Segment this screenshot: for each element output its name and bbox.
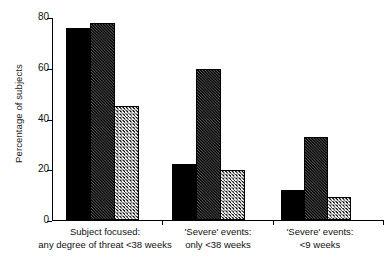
bar-chart: Percentage of subjects 80 60 40 20 0: [0, 0, 392, 267]
y-tick-label: 0: [43, 214, 49, 226]
x-tick-separator-2: [273, 221, 274, 225]
y-tick-label: 40: [38, 113, 49, 125]
y-tick-label: 60: [38, 62, 49, 74]
category-label-line2: <9 weeks: [265, 239, 375, 252]
bar-group3-series1: [281, 190, 305, 220]
x-tick-end: [383, 221, 384, 225]
bar-group3-series2: [304, 137, 328, 220]
category-label-3: 'Severe' events: <9 weeks: [265, 226, 375, 251]
bar-group3-series3: [327, 197, 351, 220]
bar-group1-series3: [114, 106, 139, 220]
category-label-line2: only <38 weeks: [156, 239, 280, 252]
category-label-line1: 'Severe' events:: [265, 226, 375, 239]
bar-group1-series1: [66, 28, 91, 220]
y-tick-label: 20: [38, 163, 49, 175]
y-axis-line: [52, 18, 53, 221]
x-tick-separator-1: [162, 221, 163, 225]
bar-group2-series1: [172, 164, 197, 220]
bar-group2-series2: [196, 69, 221, 221]
x-axis-line: [52, 220, 384, 221]
plot-area: 80 60 40 20 0: [52, 18, 384, 221]
bar-group1-series2: [90, 23, 115, 220]
category-label-line1: 'Severe' events:: [156, 226, 280, 239]
bar-group2-series3: [220, 170, 245, 221]
category-label-2: 'Severe' events: only <38 weeks: [156, 226, 280, 251]
y-tick-label: 80: [38, 11, 49, 23]
y-axis-title: Percentage of subjects: [13, 34, 24, 194]
